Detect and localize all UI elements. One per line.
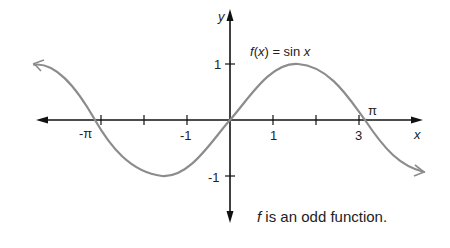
x-axis-right-arrow-icon	[411, 117, 423, 124]
tick-label-neg1-y: -1	[208, 170, 220, 185]
tick-label-neg1-x: -1	[180, 128, 192, 143]
tick-label-3-x: 3	[355, 128, 362, 143]
tick-label-neg-pi: -π	[79, 126, 92, 141]
x-axis-label: x	[413, 127, 421, 142]
function-label: f(x) = sin x	[250, 44, 311, 59]
sine-graph: y x -π -1 1 3 π 1 -1 f(x) = sin x f is a…	[0, 0, 450, 248]
y-axis-up-arrow-icon	[227, 9, 234, 21]
tick-label-1-y: 1	[214, 57, 221, 72]
x-axis-left-arrow-icon	[36, 117, 48, 124]
y-axis-label: y	[217, 9, 226, 24]
caption: f is an odd function.	[257, 208, 387, 225]
y-axis-down-arrow-icon	[227, 211, 234, 223]
tick-label-pi: π	[368, 103, 377, 118]
tick-label-1-x: 1	[270, 128, 277, 143]
